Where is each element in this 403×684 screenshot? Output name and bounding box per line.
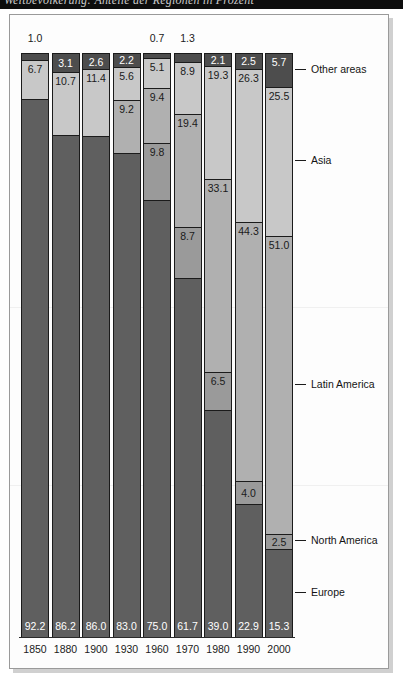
bar-segment-2000-other-areas[interactable]: 5.7 — [266, 54, 292, 87]
legend-label: Asia — [311, 155, 331, 166]
bar-segment-1990-asia[interactable]: 26.3 — [236, 69, 262, 223]
bar-stack-2000[interactable]: 5.725.551.02.515.3 — [265, 53, 293, 637]
bar-segment-1980-other-areas[interactable]: 2.1 — [205, 54, 231, 66]
x-axis-tick-1850: 1850 — [21, 643, 49, 655]
segment-value-label: 6.5 — [205, 376, 231, 387]
bar-stack-1880[interactable]: 3.110.786.2 — [52, 53, 80, 637]
legend-leader-line-icon — [295, 592, 306, 593]
segment-value-label: 11.4 — [83, 73, 109, 84]
bar-stack-1850[interactable]: 6.792.2 — [21, 53, 49, 637]
bar-segment-1980-latin-america[interactable]: 33.1 — [205, 179, 231, 372]
segment-value-label: 4.0 — [236, 488, 262, 499]
bar-segment-1960-europe[interactable]: 75.0 — [144, 200, 170, 638]
bar-stack-1930[interactable]: 2.25.69.283.0 — [113, 53, 141, 637]
legend-label: North America — [311, 535, 378, 546]
legend-callout-europe[interactable]: Europe — [295, 586, 345, 598]
bar-segment-1980-europe[interactable]: 39.0 — [205, 410, 231, 638]
segment-value-label: 2.6 — [83, 56, 109, 67]
segment-value-label: 10.7 — [53, 76, 79, 87]
x-axis-tick-1930: 1930 — [113, 643, 141, 655]
x-axis-tick-1960: 1960 — [143, 643, 171, 655]
bar-segment-1930-other-areas[interactable]: 2.2 — [114, 54, 140, 67]
segment-value-label: 33.1 — [205, 183, 231, 194]
bar-segment-1850-asia[interactable]: 6.7 — [22, 60, 48, 99]
legend-leader-line-icon — [295, 160, 306, 161]
bar-segment-1930-latin-america[interactable]: 9.2 — [114, 100, 140, 154]
segment-value-label: 8.9 — [175, 66, 201, 77]
segment-value-label: 26.3 — [236, 73, 262, 84]
bar-stack-1980[interactable]: 2.119.333.16.539.0 — [204, 53, 232, 637]
legend-callout-other-areas[interactable]: Other areas — [295, 64, 366, 76]
x-axis-tick-2000: 2000 — [265, 643, 293, 655]
bar-segment-2000-asia[interactable]: 25.5 — [266, 87, 292, 236]
legend-callout-latin-america[interactable]: Latin America — [295, 378, 375, 390]
bar-segment-1970-other-areas[interactable] — [175, 54, 201, 62]
segment-value-label: 44.3 — [236, 226, 262, 237]
bar-segment-1900-asia[interactable]: 11.4 — [83, 69, 109, 136]
legend-label: Europe — [311, 587, 345, 598]
segment-value-label: 15.3 — [266, 621, 292, 632]
bar-segment-1980-north-america[interactable]: 6.5 — [205, 372, 231, 410]
x-axis-tick-1900: 1900 — [82, 643, 110, 655]
above-bar-value-label-1970: 1.3 — [174, 33, 202, 44]
segment-value-label: 3.1 — [53, 58, 79, 69]
bar-segment-1880-europe[interactable]: 86.2 — [53, 135, 79, 638]
above-bar-value-label-1960: 0.7 — [143, 33, 171, 44]
bar-segment-2000-north-america[interactable]: 2.5 — [266, 534, 292, 549]
bar-segment-1970-asia[interactable]: 8.9 — [175, 62, 201, 114]
bar-segment-1900-europe[interactable]: 86.0 — [83, 136, 109, 638]
bar-stack-1900[interactable]: 2.611.486.0 — [82, 53, 110, 637]
legend-callout-asia[interactable]: Asia — [295, 155, 331, 167]
segment-value-label: 5.6 — [114, 71, 140, 82]
segment-value-label: 19.4 — [175, 118, 201, 129]
segment-value-label: 9.8 — [144, 147, 170, 158]
x-axis-tick-1990: 1990 — [235, 643, 263, 655]
figure-panel: 1.06.792.23.110.786.22.611.486.02.25.69.… — [9, 14, 389, 669]
legend-leader-line-icon — [295, 69, 306, 70]
segment-value-label: 25.5 — [266, 91, 292, 102]
segment-value-label: 2.1 — [205, 55, 231, 66]
segment-value-label: 5.7 — [266, 57, 292, 68]
legend-label: Latin America — [311, 379, 375, 390]
segment-value-label: 75.0 — [144, 621, 170, 632]
x-axis-tick-1980: 1980 — [204, 643, 232, 655]
bar-segment-1900-other-areas[interactable]: 2.6 — [83, 54, 109, 69]
segment-value-label: 86.0 — [83, 621, 109, 632]
bar-segment-1880-other-areas[interactable]: 3.1 — [53, 54, 79, 72]
bar-segment-1960-north-america[interactable]: 9.8 — [144, 143, 170, 200]
segment-value-label: 9.4 — [144, 92, 170, 103]
bar-segment-1880-asia[interactable]: 10.7 — [53, 72, 79, 134]
segment-value-label: 39.0 — [205, 621, 231, 632]
above-bar-value-label-1850: 1.0 — [21, 33, 49, 44]
legend-callout-north-america[interactable]: North America — [295, 534, 378, 546]
bar-segment-2000-latin-america[interactable]: 51.0 — [266, 236, 292, 534]
bar-stack-1970[interactable]: 8.919.48.761.7 — [174, 53, 202, 637]
bar-segment-1930-asia[interactable]: 5.6 — [114, 67, 140, 100]
segment-value-label: 22.9 — [236, 621, 262, 632]
segment-value-label: 2.5 — [266, 537, 292, 548]
bar-segment-1970-europe[interactable]: 61.7 — [175, 278, 201, 638]
bar-segment-1990-latin-america[interactable]: 44.3 — [236, 222, 262, 481]
bar-stack-1960[interactable]: 5.19.49.875.0 — [143, 53, 171, 637]
bar-segment-1970-north-america[interactable]: 8.7 — [175, 227, 201, 278]
bar-segment-1980-asia[interactable]: 19.3 — [205, 66, 231, 179]
legend-label: Other areas — [311, 64, 366, 75]
bar-segment-1970-latin-america[interactable]: 19.4 — [175, 114, 201, 227]
segment-value-label: 8.7 — [175, 231, 201, 242]
segment-value-label: 19.3 — [205, 70, 231, 81]
segment-value-label: 9.2 — [114, 104, 140, 115]
bar-stack-1990[interactable]: 2.526.344.34.022.9 — [235, 53, 263, 637]
segment-value-label: 2.5 — [236, 56, 262, 67]
bar-segment-1990-north-america[interactable]: 4.0 — [236, 481, 262, 504]
bar-segment-1850-europe[interactable]: 92.2 — [22, 99, 48, 637]
bar-segment-1990-europe[interactable]: 22.9 — [236, 504, 262, 638]
stacked-bar-plot-area: 1.06.792.23.110.786.22.611.486.02.25.69.… — [21, 33, 293, 637]
top-cutoff-banner: Weltbevölkerung: Anteile der Regionen in… — [0, 0, 403, 9]
bar-segment-1930-europe[interactable]: 83.0 — [114, 153, 140, 638]
bar-segment-1960-asia[interactable]: 5.1 — [144, 58, 170, 88]
x-axis-tick-1880: 1880 — [52, 643, 80, 655]
bar-segment-1960-latin-america[interactable]: 9.4 — [144, 88, 170, 143]
bar-segment-1990-other-areas[interactable]: 2.5 — [236, 54, 262, 69]
bar-segment-2000-europe[interactable]: 15.3 — [266, 549, 292, 638]
segment-value-label: 6.7 — [22, 64, 48, 75]
